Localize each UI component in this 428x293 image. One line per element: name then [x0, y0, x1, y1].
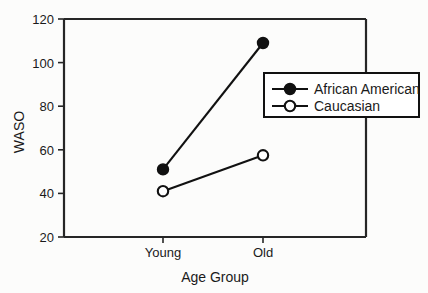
y-tick-label-120: 120 [32, 12, 54, 27]
data-point-caucasian-old [258, 150, 268, 160]
y-tick-label-20: 20 [40, 230, 54, 245]
series-african-american [158, 38, 269, 175]
data-point-african-american-old [258, 38, 269, 49]
x-axis-tick-labels: Young Old [145, 245, 273, 260]
y-axis-tick-labels: 20 40 60 80 100 120 [32, 12, 54, 245]
chart-legend: African American Caucasian [264, 73, 420, 117]
x-axis-title: Age Group [181, 269, 249, 285]
y-axis-title: WASO [11, 111, 27, 153]
x-tick-label-young: Young [145, 245, 181, 260]
filled-circle-icon [285, 84, 296, 95]
y-tick-label-100: 100 [32, 56, 54, 71]
legend-label-african-american: African American [314, 81, 420, 97]
y-tick-label-60: 60 [40, 143, 54, 158]
x-tick-label-old: Old [253, 245, 273, 260]
chart-figure: 20 40 60 80 100 120 WASO Young Old Age G… [0, 0, 428, 293]
legend-label-caucasian: Caucasian [314, 98, 380, 114]
open-circle-icon [285, 101, 295, 111]
y-tick-label-40: 40 [40, 186, 54, 201]
data-point-african-american-young [158, 164, 169, 175]
line-chart-canvas: 20 40 60 80 100 120 WASO Young Old Age G… [0, 0, 428, 293]
plot-frame [64, 19, 366, 237]
legend-entry-caucasian: Caucasian [272, 98, 380, 114]
series-caucasian [158, 150, 268, 196]
series-caucasian-line [163, 155, 263, 191]
data-point-caucasian-young [158, 186, 168, 196]
y-tick-label-80: 80 [40, 99, 54, 114]
series-african-american-line [163, 43, 263, 169]
